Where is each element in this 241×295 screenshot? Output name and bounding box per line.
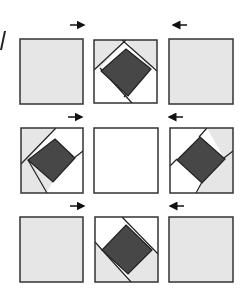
cell-r2-c0 [20,217,83,282]
puzzle-diagram [0,0,241,295]
cell-r0-c0 [20,39,83,104]
cell-r1-c0 [21,128,83,193]
cell-r1-c2 [170,128,233,193]
cell-r2-c1 [95,217,158,282]
cell-r2-c2 [169,217,233,282]
cell-r0-c2 [169,39,233,104]
cell-r1-c1 [94,128,158,193]
cell-r0-c1 [94,40,157,103]
label-fragment-a [0,31,6,50]
